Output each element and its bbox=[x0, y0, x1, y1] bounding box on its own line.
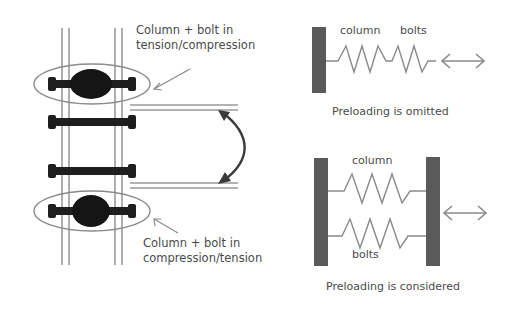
bottom-caption: Preloading is considered bbox=[326, 279, 460, 294]
fixed-wall-top bbox=[312, 27, 326, 93]
top-caption: Preloading is omitted bbox=[332, 104, 449, 119]
rotation-arrow bbox=[222, 112, 245, 181]
spring-bolts bbox=[328, 219, 426, 248]
bottom-callout-line2: compression/tension bbox=[143, 251, 262, 266]
double-arrow-bottom bbox=[444, 206, 486, 220]
moving-plate bbox=[426, 157, 440, 266]
spring-column bbox=[328, 174, 426, 203]
top-callout-label: Column + bolt in tension/compression bbox=[136, 23, 255, 53]
top-stress-blob bbox=[70, 69, 112, 99]
top-callout-line2: tension/compression bbox=[136, 38, 255, 53]
top-column-label: column bbox=[340, 23, 381, 38]
fixed-wall-bottom bbox=[314, 158, 328, 266]
bottom-callout-line1: Column + bolt in bbox=[143, 236, 262, 251]
double-arrow-top bbox=[442, 54, 484, 68]
diagram-canvas bbox=[0, 0, 524, 313]
bottom-column-label: column bbox=[352, 153, 393, 168]
top-callout-line1: Column + bolt in bbox=[136, 23, 255, 38]
beams bbox=[130, 105, 238, 188]
bottom-stress-blob bbox=[72, 195, 110, 227]
bottom-callout-label: Column + bolt in compression/tension bbox=[143, 236, 262, 266]
top-bolts-label: bolts bbox=[400, 23, 427, 38]
bottom-bolts-label: bolts bbox=[352, 247, 379, 262]
spring-series bbox=[326, 46, 436, 72]
